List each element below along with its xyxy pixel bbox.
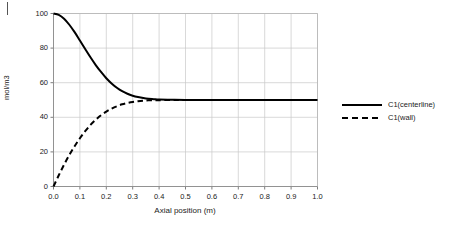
x-tick-label: 0.8	[259, 193, 269, 201]
x-tick-label: 0.7	[233, 193, 243, 201]
y-tick-label: 80	[22, 44, 48, 52]
legend-label: C1(wall)	[383, 114, 416, 122]
x-tick-label: 0.0	[48, 193, 58, 201]
chart-legend: C1(centerline)C1(wall)	[341, 98, 447, 124]
y-tick-label: 40	[22, 114, 48, 122]
y-axis-title: mol/m3	[3, 75, 11, 100]
y-tick-label: 100	[22, 10, 48, 18]
x-tick-label: 0.2	[101, 193, 111, 201]
x-tick-label: 0.3	[127, 193, 137, 201]
legend-label: C1(centerline)	[383, 101, 435, 109]
x-tick-label: 1.0	[312, 193, 322, 201]
x-axis-title: Axial position (m)	[154, 207, 215, 215]
x-tick-label: 0.1	[75, 193, 85, 201]
legend-item[interactable]: C1(wall)	[341, 111, 447, 124]
x-tick-label: 0.9	[286, 193, 296, 201]
chart-figure: 020406080100 0.00.10.20.30.40.50.60.70.8…	[0, 0, 449, 228]
y-tick-label: 20	[22, 148, 48, 156]
y-tick-label: 60	[22, 79, 48, 87]
y-tick-label: 0	[22, 183, 48, 191]
x-tick-label: 0.6	[207, 193, 217, 201]
solid-line-icon	[341, 100, 383, 110]
x-tick-label: 0.4	[154, 193, 164, 201]
legend-item[interactable]: C1(centerline)	[341, 98, 447, 111]
x-tick-label: 0.5	[180, 193, 190, 201]
dashed-line-icon	[341, 113, 383, 123]
